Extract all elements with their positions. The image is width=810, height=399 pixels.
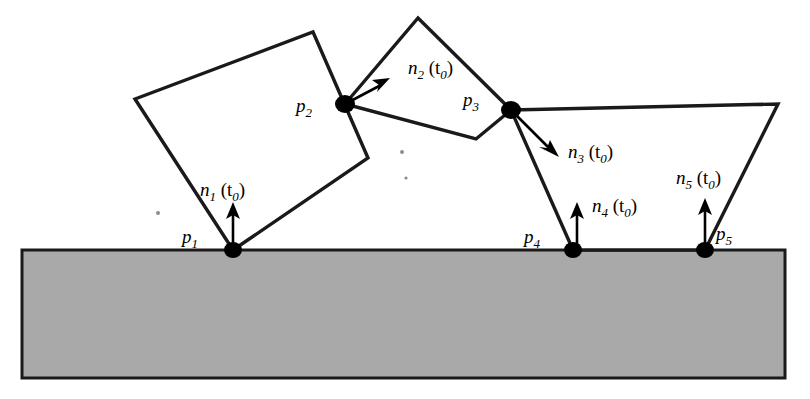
point-label-p3-base: p [461, 89, 473, 110]
normal-label-n4-base: n [592, 195, 602, 216]
normal-label-n1-close: ) [239, 179, 245, 201]
normal-label-n3-base: n [568, 141, 578, 162]
point-label-p1-sub: 1 [192, 236, 199, 251]
contact-point-p2 [335, 95, 355, 113]
normal-label-n1-arg: (t [216, 179, 233, 201]
speck-mark-3 [404, 176, 407, 179]
point-label-p1-base: p [180, 226, 192, 247]
ground-layer [22, 250, 785, 378]
normal-label-n3-arg: (t [584, 141, 601, 163]
normal-label-n5-arg: (t [692, 167, 709, 189]
normal-label-n5-base: n [676, 167, 686, 188]
contact-point-p5 [696, 242, 714, 258]
contact-point-p3 [501, 101, 521, 119]
point-label-p4-sub: 4 [534, 236, 541, 251]
normal-label-n3-close: ) [607, 141, 613, 163]
point-label-p2-base: p [294, 95, 306, 116]
point-label-p5: p5 [714, 223, 733, 248]
point-label-p3-sub: 3 [472, 99, 480, 114]
contact-normals-diagram: p1 p2 p3 p4 p5 n1 (t0) n2 (t0) n3 ( [0, 0, 810, 399]
ground-block [22, 250, 785, 378]
normal-label-n4-arg: (t [608, 195, 625, 217]
point-label-p2-sub: 2 [306, 105, 313, 120]
normal-label-n2-arg: (t [424, 57, 441, 79]
normal-label-n2-base: n [408, 57, 418, 78]
body-middle-quad [345, 18, 511, 139]
figure-canvas: p1 p2 p3 p4 p5 n1 (t0) n2 (t0) n3 ( [0, 0, 810, 399]
body-left-quad [135, 32, 368, 250]
normal-label-n5-close: ) [715, 167, 721, 189]
normal-label-n4-close: ) [631, 195, 637, 217]
point-label-p4: p4 [522, 226, 541, 251]
normal-label-n2-close: ) [447, 57, 453, 79]
point-label-p5-sub: 5 [726, 233, 733, 248]
contact-point-p4 [564, 242, 582, 258]
point-label-p1: p1 [180, 226, 198, 251]
speck-mark-1 [156, 211, 160, 215]
contact-point-p1 [224, 242, 242, 258]
speck-mark-2 [400, 150, 404, 154]
body-right-trapezoid [511, 104, 778, 250]
point-label-p5-base: p [714, 223, 726, 244]
point-label-p4-base: p [522, 226, 534, 247]
normal-label-n1-base: n [200, 179, 210, 200]
